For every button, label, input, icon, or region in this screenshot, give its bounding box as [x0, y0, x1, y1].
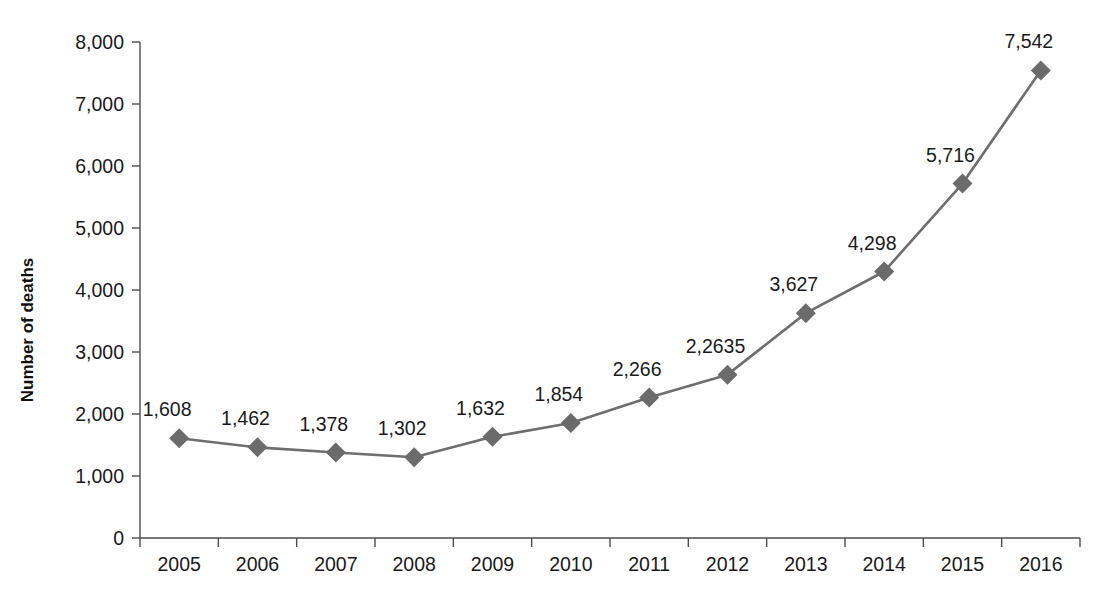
series-line-number-of-deaths — [179, 70, 1041, 457]
x-tick-label: 2013 — [784, 553, 827, 575]
data-point-label: 4,298 — [848, 232, 897, 254]
data-point-label: 1,608 — [143, 398, 192, 420]
x-tick-label: 2009 — [471, 553, 514, 575]
data-point-label: 3,627 — [769, 273, 818, 295]
data-point-label: 1,302 — [378, 417, 427, 439]
x-tick-label: 2010 — [549, 553, 593, 575]
data-point-label: 1,632 — [456, 397, 505, 419]
data-point-label: 1,854 — [534, 383, 583, 405]
y-axis-title: Number of deaths — [18, 258, 37, 403]
data-point-marker — [169, 428, 189, 448]
data-point-marker — [561, 413, 581, 433]
y-tick-label: 1,000 — [75, 465, 124, 487]
y-tick-label: 3,000 — [75, 341, 124, 363]
data-point-label: 2,266 — [613, 358, 662, 380]
y-tick-label: 4,000 — [75, 279, 124, 301]
data-point-label: 1,378 — [299, 413, 348, 435]
x-tick-label: 2007 — [314, 553, 357, 575]
series-markers — [169, 60, 1051, 467]
data-point-marker — [326, 443, 346, 463]
data-point-label: 7,542 — [1004, 30, 1053, 52]
data-point-marker — [483, 427, 503, 447]
x-tick-label: 2011 — [628, 553, 670, 575]
y-tick-label: 2,000 — [75, 403, 124, 425]
x-tick-label: 2012 — [706, 553, 749, 575]
x-tick-label: 2014 — [862, 553, 906, 575]
data-point-label: 1,462 — [221, 407, 270, 429]
y-tick-label: 7,000 — [75, 93, 124, 115]
data-point-label: 5,716 — [926, 144, 975, 166]
y-tick-label: 6,000 — [75, 155, 124, 177]
data-point-marker — [639, 388, 659, 408]
x-tick-label: 2006 — [236, 553, 279, 575]
x-tick-label: 2008 — [392, 553, 435, 575]
x-axis-ticks: 2005200620072008200920102011201220132014… — [140, 538, 1080, 575]
x-tick-label: 2015 — [941, 553, 985, 575]
data-point-marker — [404, 447, 424, 467]
y-tick-label: 8,000 — [75, 31, 124, 53]
x-tick-label: 2005 — [157, 553, 201, 575]
data-point-marker — [248, 437, 268, 457]
y-tick-label: 0 — [113, 527, 124, 549]
chart-container: Number of deaths 01,0002,0003,0004,0005,… — [0, 0, 1101, 604]
y-tick-label: 5,000 — [75, 217, 124, 239]
x-tick-label: 2016 — [1019, 553, 1062, 575]
data-point-label: 2,2635 — [686, 335, 746, 357]
y-axis-ticks: 01,0002,0003,0004,0005,0006,0007,0008,00… — [75, 31, 140, 549]
line-chart: Number of deaths 01,0002,0003,0004,0005,… — [0, 0, 1101, 604]
data-point-marker — [1031, 60, 1051, 80]
